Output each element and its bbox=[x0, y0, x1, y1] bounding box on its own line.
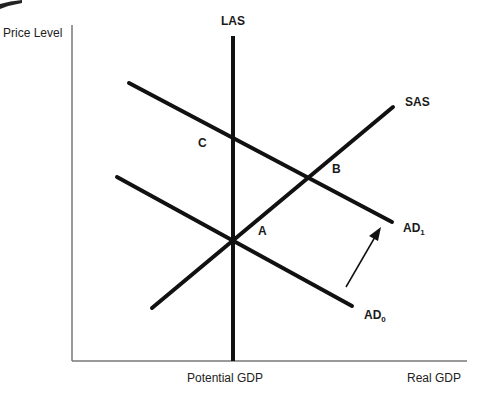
cropped-artifact bbox=[0, 0, 22, 9]
point-c-label: C bbox=[198, 137, 207, 149]
ad1-label-subscript: 1 bbox=[420, 228, 424, 237]
ad1-label-main: AD bbox=[403, 221, 420, 235]
y-axis-label: Price Level bbox=[3, 27, 62, 39]
shift-arrow bbox=[346, 237, 375, 287]
sas-label: SAS bbox=[405, 96, 430, 108]
x-axis-label: Real GDP bbox=[407, 372, 461, 384]
ad1-label: AD1 bbox=[403, 222, 425, 237]
x-tick-potential-gdp: Potential GDP bbox=[187, 372, 263, 384]
arrow-head-icon bbox=[369, 227, 381, 241]
ad0-label-subscript: 0 bbox=[381, 315, 385, 324]
las-label: LAS bbox=[221, 15, 245, 27]
ad0-label-main: AD bbox=[364, 308, 381, 322]
point-a-label: A bbox=[258, 225, 267, 237]
point-b-label: B bbox=[332, 163, 341, 175]
sas-curve bbox=[152, 107, 393, 308]
diagram-canvas bbox=[0, 0, 481, 396]
ad1-curve bbox=[129, 83, 392, 222]
ad0-label: AD0 bbox=[364, 309, 386, 324]
